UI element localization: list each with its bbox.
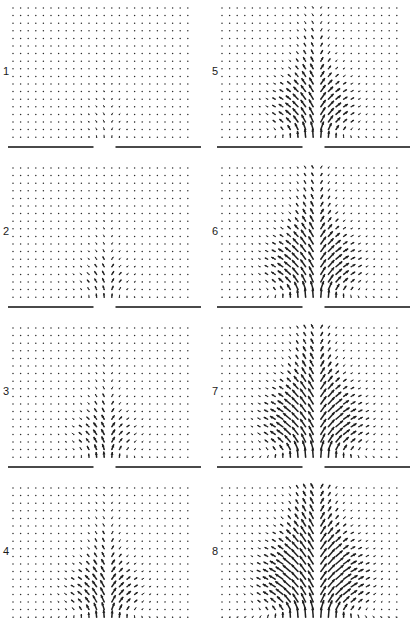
grid-dots [221,7,397,138]
slot-wall [8,306,201,308]
quiver-plot-1 [0,0,209,160]
grid-dots [221,487,397,618]
grid-dots [12,7,188,138]
panel-label-8: 8 [212,546,218,557]
quiver-plot-5 [209,0,418,160]
velocity-arrows [222,6,397,137]
panel-label-2: 2 [3,226,9,237]
grid-dots [221,167,397,298]
slot-wall [217,466,410,468]
velocity-arrows [222,165,397,297]
slot-wall [8,466,201,468]
panel-label-1: 1 [3,66,9,77]
panel-label-4: 4 [3,546,9,557]
quiver-plot-7 [209,320,418,480]
velocity-arrows [222,483,397,617]
panel-label-6: 6 [212,226,218,237]
figure-vector-field-grid: 12345678 [0,0,418,624]
panel-1: 1 [0,0,209,160]
quiver-plot-6 [209,160,418,320]
grid-dots [12,327,188,458]
grid-dots [12,487,188,618]
panel-8: 8 [209,480,418,624]
panel-4: 4 [0,480,209,624]
velocity-arrows [43,168,165,297]
grid-dots [221,327,397,458]
quiver-plot-8 [209,480,418,624]
slot-wall [8,146,201,148]
velocity-arrows [21,487,188,617]
slot-wall [217,146,410,148]
panel-label-3: 3 [3,386,9,397]
velocity-arrows [222,324,397,457]
panel-label-7: 7 [212,386,218,397]
velocity-arrows [36,327,173,457]
panel-label-5: 5 [212,66,218,77]
panel-5: 5 [209,0,418,160]
quiver-plot-4 [0,480,209,624]
panel-2: 2 [0,160,209,320]
quiver-plot-2 [0,160,209,320]
quiver-plot-3 [0,320,209,480]
grid-dots [12,167,188,298]
panel-3: 3 [0,320,209,480]
panel-6: 6 [209,160,418,320]
slot-wall [217,306,410,308]
panel-7: 7 [209,320,418,480]
